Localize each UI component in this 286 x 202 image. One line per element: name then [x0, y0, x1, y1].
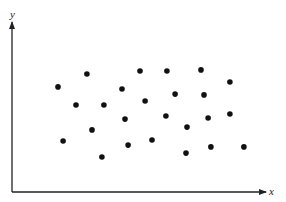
data-point [227, 111, 233, 117]
data-point [172, 91, 178, 97]
data-point [227, 79, 233, 85]
scatter-chart: y x [0, 0, 286, 202]
data-point [122, 116, 128, 122]
x-axis-label: x [268, 185, 274, 197]
data-point [241, 144, 247, 150]
plot-area: y x [9, 8, 274, 197]
data-points [55, 67, 247, 160]
data-point [101, 102, 107, 108]
data-point [89, 127, 95, 133]
data-point [125, 142, 131, 148]
data-point [164, 68, 170, 74]
data-point [137, 68, 143, 74]
data-point [99, 154, 105, 160]
data-point [142, 98, 148, 104]
data-point [73, 102, 79, 108]
data-point [84, 71, 90, 77]
data-point [60, 138, 66, 144]
data-point [201, 92, 207, 98]
y-axis-label: y [9, 8, 15, 20]
data-point [119, 86, 125, 92]
data-point [184, 124, 190, 130]
data-point [55, 84, 61, 90]
data-point [163, 113, 169, 119]
data-point [208, 144, 214, 150]
data-point [198, 67, 204, 73]
data-point [183, 150, 189, 156]
data-point [149, 137, 155, 143]
data-point [205, 115, 211, 121]
